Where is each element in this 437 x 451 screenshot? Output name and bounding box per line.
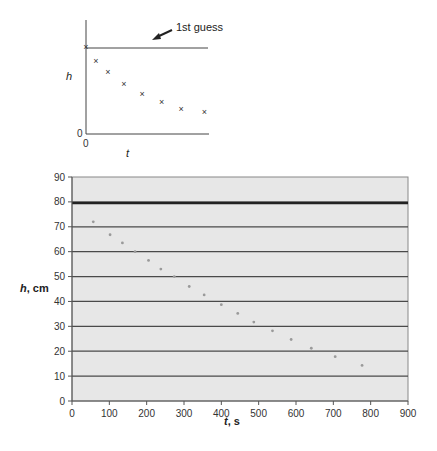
- x-tick-label: 200: [138, 408, 155, 419]
- x-axis-label: t, s: [224, 415, 240, 427]
- x-tick-label: 500: [250, 408, 267, 419]
- data-point: [334, 355, 337, 358]
- x-tick-label: 900: [400, 408, 417, 419]
- x-tick-label: 700: [325, 408, 342, 419]
- x-tick-label: 0: [69, 408, 75, 419]
- data-point: [290, 338, 293, 341]
- sketch-chart: ×××××××× 1st guess h t 0 0: [66, 20, 224, 159]
- x-tick-label: 800: [362, 408, 379, 419]
- data-point: [271, 329, 274, 332]
- data-point: [203, 294, 206, 297]
- data-point: [109, 233, 112, 236]
- sketch-point: ×: [159, 97, 164, 107]
- x-tick-label: 100: [101, 408, 118, 419]
- main-chart: 0100200300400500600700800900 01020304050…: [20, 172, 417, 428]
- x-tick-label: 600: [288, 408, 305, 419]
- y-axis-ticks: 0102030405060708090: [54, 172, 72, 407]
- sketch-annotation: 1st guess: [176, 21, 224, 33]
- data-point: [173, 275, 176, 278]
- data-point: [236, 312, 239, 315]
- y-tick-label: 60: [54, 246, 66, 257]
- y-tick-label: 0: [59, 396, 65, 407]
- figure: ×××××××× 1st guess h t 0 0 0100200300400…: [0, 0, 437, 451]
- data-point: [220, 303, 223, 306]
- data-point: [134, 250, 137, 253]
- y-tick-label: 30: [54, 321, 66, 332]
- y-tick-label: 40: [54, 296, 66, 307]
- sketch-point: ×: [179, 104, 184, 114]
- sketch-points: ××××××××: [83, 42, 207, 117]
- data-point: [159, 268, 162, 271]
- sketch-x-label: t: [126, 147, 130, 159]
- plot-area: [72, 177, 408, 401]
- sketch-y-label: h: [66, 70, 72, 82]
- data-point: [147, 259, 150, 262]
- y-tick-label: 80: [54, 196, 66, 207]
- data-point: [188, 285, 191, 288]
- x-tick-label: 300: [176, 408, 193, 419]
- y-tick-label: 20: [54, 346, 66, 357]
- y-tick-label: 50: [54, 271, 66, 282]
- x-axis-ticks: 0100200300400500600700800900: [69, 401, 417, 419]
- sketch-point: ×: [83, 42, 88, 52]
- sketch-x-origin: 0: [83, 138, 89, 149]
- data-point: [92, 220, 95, 223]
- y-axis-label: h, cm: [20, 282, 49, 294]
- sketch-point: ×: [105, 67, 110, 77]
- arrow-head-icon: [152, 33, 161, 40]
- sketch-point: ×: [202, 107, 207, 117]
- y-tick-label: 70: [54, 221, 66, 232]
- y-tick-label: 90: [54, 172, 66, 183]
- sketch-point: ×: [139, 89, 144, 99]
- sketch-point: ×: [121, 79, 126, 89]
- data-point: [121, 242, 124, 245]
- data-point: [361, 364, 364, 367]
- sketch-point: ×: [93, 56, 98, 66]
- y-tick-label: 10: [54, 371, 66, 382]
- data-point: [252, 321, 255, 324]
- data-point: [310, 347, 313, 350]
